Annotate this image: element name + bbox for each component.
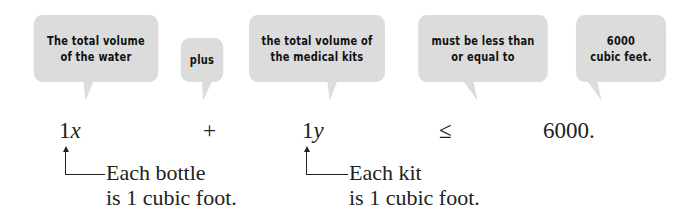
arrow-shaft: [65, 174, 105, 175]
plus-symbol: +: [203, 118, 216, 143]
callout-tail: [463, 81, 482, 101]
arrow-shaft: [306, 174, 348, 175]
callout-line: must be less than: [431, 33, 534, 49]
callout-line: plus: [190, 52, 214, 68]
callout-tail: [81, 81, 94, 101]
callout-plus: plus: [181, 38, 224, 82]
callout-line: cubic feet.: [590, 49, 651, 65]
note-line: Each bottle: [106, 160, 237, 185]
plus-sign: +: [203, 118, 216, 144]
callout-line: of the water: [47, 49, 145, 65]
term-1y: 1y: [302, 118, 324, 144]
rhs-value: 6000.: [543, 118, 595, 144]
arrow-up-icon: [304, 146, 310, 152]
rhs-number: 6000.: [543, 118, 595, 143]
term-1x: 1x: [59, 118, 81, 144]
note-bottle: Each bottle is 1 cubic foot.: [106, 160, 237, 210]
note-line: is 1 cubic foot.: [106, 185, 237, 210]
relation-symbol: ≤: [439, 118, 452, 144]
note-line: Each kit: [349, 160, 480, 185]
arrow-shaft: [65, 150, 66, 174]
callout-kits-volume: the total volume of the medical kits: [249, 15, 385, 82]
callout-tail: [325, 81, 338, 101]
callout-6000: 6000 cubic feet.: [576, 15, 666, 82]
callout-line: 6000: [590, 33, 651, 49]
coefficient: 1: [302, 118, 314, 143]
callout-line: the total volume of: [261, 33, 372, 49]
leq-symbol: ≤: [439, 118, 452, 143]
variable-x: x: [71, 118, 81, 143]
variable-y: y: [314, 118, 324, 143]
callout-line: or equal to: [431, 49, 534, 65]
arrow-up-icon: [63, 146, 69, 152]
callout-line: The total volume: [47, 33, 145, 49]
callout-line: the medical kits: [261, 49, 372, 65]
note-line: is 1 cubic foot.: [349, 185, 480, 210]
callout-tail: [198, 81, 212, 101]
callout-water-volume: The total volume of the water: [34, 15, 159, 82]
coefficient: 1: [59, 118, 71, 143]
callout-tail: [587, 81, 606, 101]
callout-less-or-equal: must be less than or equal to: [418, 15, 548, 82]
note-kit: Each kit is 1 cubic foot.: [349, 160, 480, 210]
arrow-shaft: [306, 150, 307, 174]
